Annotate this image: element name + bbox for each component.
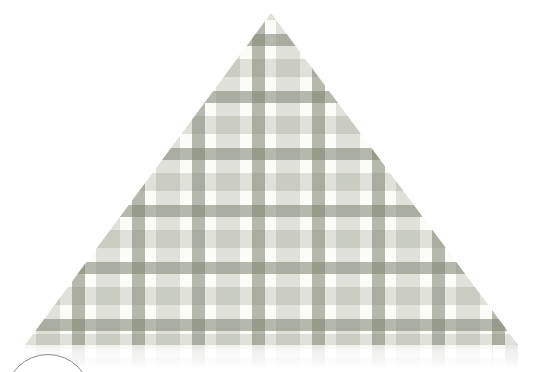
triangle-reflection [25, 345, 518, 372]
canvas [0, 0, 540, 372]
plaid-triangle [0, 13, 540, 345]
